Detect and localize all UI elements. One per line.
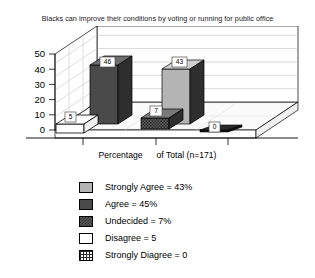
legend-swatch-strongly-disagree — [79, 250, 93, 261]
data-label-undecided-text: 7 — [154, 107, 158, 114]
legend-swatch-strongly-agree — [79, 182, 93, 193]
data-label-undecided: 7 — [150, 106, 162, 116]
y-tick-40: 40 — [34, 64, 45, 75]
chart-container: Blacks can improve their conditions by v… — [0, 0, 315, 278]
y-tick-10: 10 — [34, 109, 45, 120]
data-label-disagree-text: 5 — [69, 113, 73, 120]
legend-item-disagree[interactable]: Disagree = 5 — [79, 230, 259, 247]
legend-swatch-disagree — [79, 233, 93, 244]
legend-item-agree[interactable]: Agree = 45% — [79, 196, 259, 213]
chart-legend: Strongly Agree = 43% Agree = 45% Undecid… — [79, 179, 259, 264]
y-tick-0: 0 — [40, 124, 45, 135]
y-tick-30: 30 — [34, 79, 45, 90]
legend-label-undecided: Undecided = 7% — [105, 216, 171, 227]
legend-label-strongly-disagree: Strongly Diagree = 0 — [105, 250, 187, 261]
y-axis: 50 40 30 20 10 0 — [34, 48, 55, 135]
data-label-agree: 46 — [100, 57, 115, 67]
legend-swatch-undecided — [79, 216, 93, 227]
legend-label-agree: Agree = 45% — [105, 199, 157, 210]
legend-item-undecided[interactable]: Undecided = 7% — [79, 213, 259, 230]
x-axis-caption: Percentageof Total (n=171) — [0, 150, 315, 160]
x-axis — [26, 138, 298, 145]
data-label-strongly-disagree-text: 0 — [213, 123, 217, 130]
x-axis-caption-part2: of Total (n=171) — [157, 150, 217, 160]
data-label-disagree: 5 — [65, 112, 76, 122]
legend-label-strongly-agree: Strongly Agree = 43% — [105, 182, 192, 193]
x-axis-caption-part1: Percentage — [99, 150, 143, 160]
data-label-agree-text: 46 — [104, 58, 112, 65]
legend-item-strongly-disagree[interactable]: Strongly Diagree = 0 — [79, 247, 259, 264]
y-tick-20: 20 — [34, 94, 45, 105]
chart-title: Blacks can improve their conditions by v… — [0, 14, 315, 23]
data-label-strongly-disagree: 0 — [209, 122, 220, 132]
plot-area: 50 40 30 20 10 0 — [0, 26, 315, 151]
data-label-strongly-agree-text: 43 — [176, 58, 184, 65]
data-label-strongly-agree: 43 — [172, 57, 187, 67]
legend-item-strongly-agree[interactable]: Strongly Agree = 43% — [79, 179, 259, 196]
legend-label-disagree: Disagree = 5 — [105, 233, 156, 244]
y-tick-50: 50 — [34, 48, 45, 59]
legend-swatch-agree — [79, 199, 93, 210]
